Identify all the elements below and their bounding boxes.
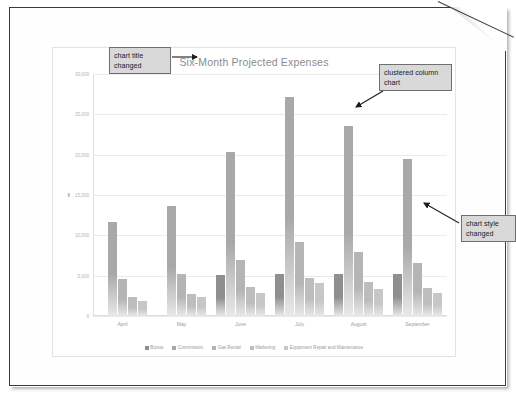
arrow-to-style	[424, 203, 459, 223]
document-page: Six-Month Projected Expenses 05,00010,00…	[9, 7, 506, 386]
callout-arrows	[9, 7, 506, 386]
arrow-to-plot	[356, 91, 383, 107]
